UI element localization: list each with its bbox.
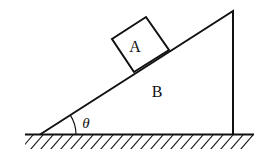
label-wedge-b: B — [152, 83, 163, 100]
ground-hatching — [20, 135, 253, 150]
angle-arc — [70, 115, 76, 134]
label-angle-theta: θ — [82, 115, 90, 131]
incline-diagram: A B θ — [0, 0, 277, 168]
diagram-canvas: A B θ — [0, 0, 277, 168]
label-block-a: A — [129, 38, 141, 55]
